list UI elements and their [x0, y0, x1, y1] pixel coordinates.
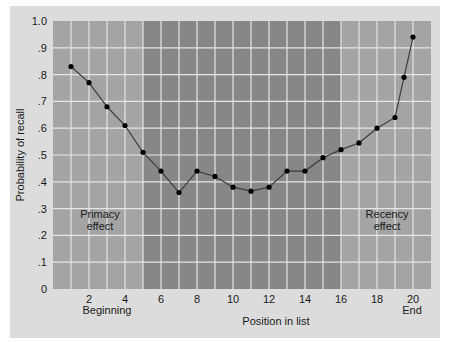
data-point-marker: [356, 140, 361, 145]
data-point-marker: [122, 123, 127, 128]
x-sublabel-end: End: [402, 304, 422, 316]
y-tick-label: .3: [38, 203, 47, 215]
x-tick-label: 12: [263, 293, 275, 305]
primacy-annotation-line1: Primacy: [80, 208, 120, 220]
data-point-marker: [392, 115, 397, 120]
data-point-marker: [104, 104, 109, 109]
y-tick-label: .8: [38, 69, 47, 81]
data-point-marker: [140, 150, 145, 155]
y-axis-label: Probability of recall: [14, 109, 26, 202]
x-tick-label: 16: [335, 293, 347, 305]
x-sublabel-beginning: Beginning: [83, 304, 132, 316]
y-tick-label: 0: [41, 283, 47, 295]
x-axis-ticks: 2468101214161820: [86, 293, 419, 305]
x-tick-label: 6: [158, 293, 164, 305]
y-tick-label: .6: [38, 122, 47, 134]
y-tick-label: 1.0: [32, 15, 47, 27]
x-tick-label: 18: [371, 293, 383, 305]
data-point-marker: [401, 75, 406, 80]
data-point-marker: [230, 185, 235, 190]
data-point-marker: [86, 80, 91, 85]
data-point-marker: [284, 168, 289, 173]
data-point-marker: [194, 168, 199, 173]
serial-position-chart: 0.1.2.3.4.5.6.7.8.91.0 2468101214161820 …: [0, 0, 451, 342]
x-tick-label: 14: [299, 293, 311, 305]
x-tick-label: 8: [194, 293, 200, 305]
data-point-marker: [320, 155, 325, 160]
data-point-marker: [212, 174, 217, 179]
primacy-annotation-line2: effect: [87, 220, 114, 232]
data-point-marker: [158, 168, 163, 173]
y-tick-label: .1: [38, 256, 47, 268]
y-tick-label: .5: [38, 149, 47, 161]
data-point-marker: [302, 168, 307, 173]
y-tick-label: .2: [38, 229, 47, 241]
recency-annotation-line1: Recency: [366, 208, 409, 220]
data-point-marker: [374, 126, 379, 131]
y-tick-label: .4: [38, 176, 47, 188]
y-tick-label: .9: [38, 42, 47, 54]
data-point-marker: [248, 189, 253, 194]
y-tick-label: .7: [38, 95, 47, 107]
data-point-marker: [410, 34, 415, 39]
y-axis-ticks: 0.1.2.3.4.5.6.7.8.91.0: [32, 15, 47, 295]
data-point-marker: [338, 147, 343, 152]
data-point-marker: [68, 64, 73, 69]
recency-annotation-line2: effect: [374, 220, 401, 232]
data-point-marker: [266, 185, 271, 190]
x-axis-label: Position in list: [242, 315, 309, 327]
data-point-marker: [176, 190, 181, 195]
x-tick-label: 10: [227, 293, 239, 305]
